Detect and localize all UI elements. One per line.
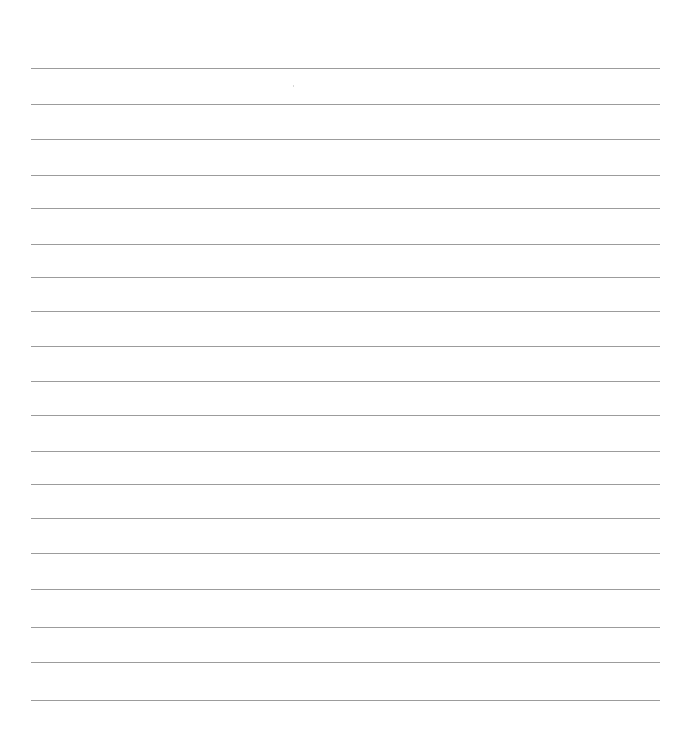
ruled-line [31,518,660,519]
ruled-line [31,484,660,485]
ruled-line [31,662,660,663]
paper-speck [293,85,294,87]
ruled-line [31,627,660,628]
ruled-line [31,451,660,452]
ruled-line [31,311,660,312]
lined-paper-page [0,0,689,741]
ruled-line [31,346,660,347]
ruled-line [31,700,660,701]
ruled-line [31,208,660,209]
ruled-line [31,139,660,140]
ruled-line [31,104,660,105]
ruled-line [31,415,660,416]
ruled-line [31,68,660,69]
ruled-line [31,589,660,590]
ruled-line [31,277,660,278]
ruled-line [31,244,660,245]
ruled-line [31,553,660,554]
ruled-line [31,381,660,382]
ruled-line [31,175,660,176]
